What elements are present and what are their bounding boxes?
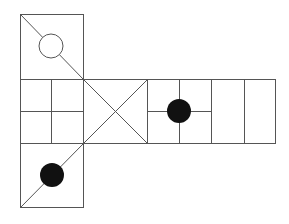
filled-circle-icon <box>167 99 191 123</box>
face-middle-right <box>212 80 276 144</box>
filled-circle-icon <box>40 163 64 187</box>
open-circle-icon <box>39 34 63 58</box>
cube-net-diagram <box>0 0 289 224</box>
